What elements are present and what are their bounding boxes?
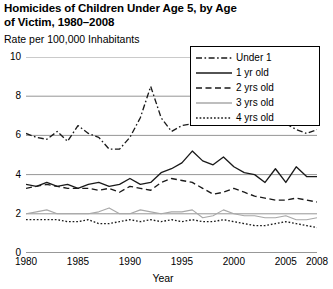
y-tick-label: 6 (3, 130, 21, 140)
y-tick-label: 10 (3, 52, 21, 62)
legend-item: 4 yrs old (195, 110, 314, 125)
x-tick-label: 2000 (214, 257, 254, 267)
legend-swatch (195, 113, 233, 123)
legend-item: 1 yr old (195, 65, 314, 80)
y-tick-label: 4 (3, 170, 21, 180)
y-tick-label: 2 (3, 209, 21, 219)
legend-label: 2 yrs old (233, 83, 274, 93)
legend-swatch (195, 68, 233, 78)
chart-title: Homicides of Children Under Age 5, by Ag… (4, 2, 244, 29)
x-axis-label: Year (0, 272, 326, 284)
x-tick-label: 1985 (58, 257, 98, 267)
x-tick-label: 1980 (6, 257, 46, 267)
x-tick-label: 2008 (297, 257, 333, 267)
series-line-4-yrs-old (26, 220, 317, 228)
legend-swatch (195, 53, 233, 63)
series-line-2-yrs-old (26, 179, 317, 203)
legend-swatch (195, 83, 233, 93)
legend-label: 1 yr old (233, 68, 269, 78)
legend-label: 3 yrs old (233, 98, 274, 108)
chart-legend: Under 11 yr old2 yrs old3 yrs old4 yrs o… (190, 46, 320, 126)
x-tick-label: 1995 (162, 257, 202, 267)
legend-label: 4 yrs old (233, 113, 274, 123)
legend-label: Under 1 (233, 53, 272, 63)
legend-item: 3 yrs old (195, 95, 314, 110)
legend-item: 2 yrs old (195, 80, 314, 95)
legend-swatch (195, 98, 233, 108)
y-axis-label: Rate per 100,000 Inhabitants (4, 33, 139, 45)
legend-item: Under 1 (195, 50, 314, 65)
x-tick-label: 1990 (110, 257, 150, 267)
series-line-1-yr-old (26, 151, 317, 188)
y-tick-label: 8 (3, 91, 21, 101)
